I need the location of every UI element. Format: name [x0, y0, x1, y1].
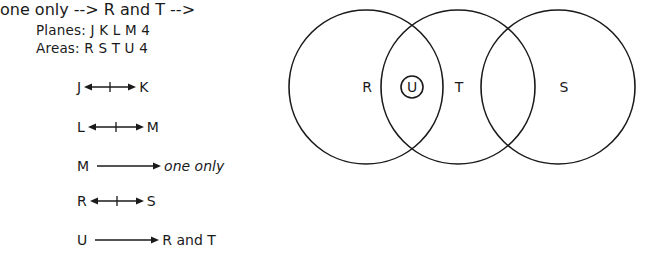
venn-diagram: R U T S — [0, 0, 669, 259]
label-t: T — [454, 79, 464, 95]
circle-s — [481, 10, 635, 164]
label-r: R — [362, 79, 372, 95]
label-u: U — [407, 79, 417, 95]
label-s: S — [560, 79, 569, 95]
